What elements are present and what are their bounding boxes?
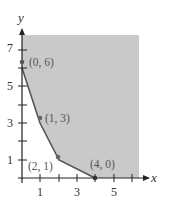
y-axis-arrow-icon [19,28,25,35]
vertex-point [93,176,98,181]
vertex-label: (0, 6) [29,56,54,69]
x-axis-label: x [150,170,157,185]
x-axis-arrow-icon [143,175,150,181]
vertex-point [38,116,43,121]
y-tick-label: 1 [7,153,13,167]
x-tick-label: 5 [111,185,117,199]
y-tick-label: 3 [7,116,13,130]
vertex-label: (1, 3) [45,112,70,125]
vertex-point [20,60,25,65]
y-axis-label: y [16,10,24,25]
vertex-point [56,155,61,160]
y-tick-label: 5 [7,79,13,93]
x-tick-label: 3 [74,185,80,199]
vertex-label: (4, 0) [90,158,115,171]
y-tick-label: 7 [7,41,13,55]
feasible-region-chart: 1 3 5 1 3 5 7 x y (0, 6) (1, 3) (2, 1) (… [0,0,169,203]
x-tick-label: 1 [37,185,43,199]
vertex-label: (2, 1) [28,160,53,173]
